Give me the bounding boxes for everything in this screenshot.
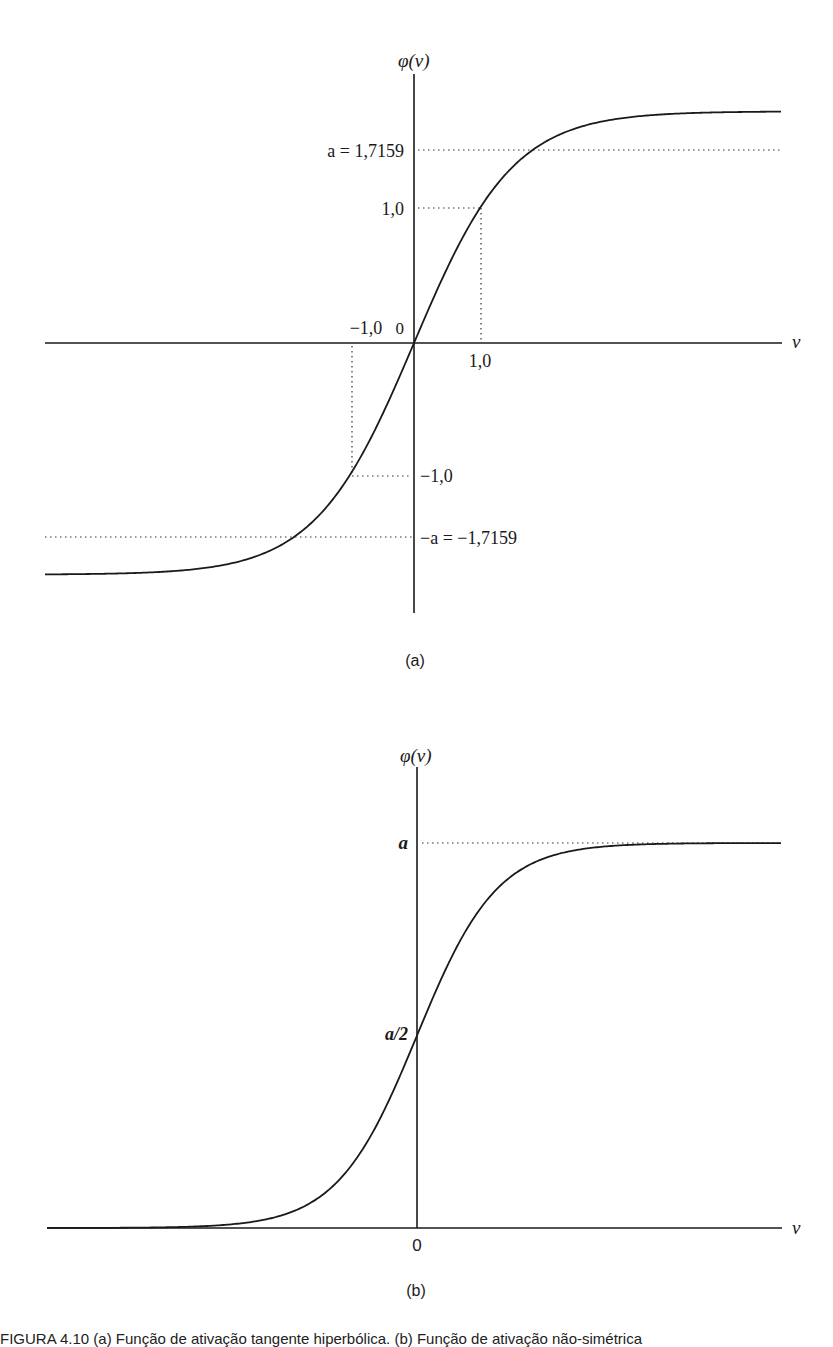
figure-caption: FIGURA 4.10 (a) Função de ativação tange… xyxy=(0,1330,833,1347)
ytick-neg1: −1,0 xyxy=(420,466,453,486)
xtick-neg1: −1,0 xyxy=(350,318,383,338)
ytick-a-value: a = 1,7159 xyxy=(327,141,404,161)
panel-label-b: (b) xyxy=(406,1282,426,1299)
origin-label-a: 0 xyxy=(396,319,405,338)
panel-a: φ(v) v 0 a = 1,7159 1,0 −1,0 −a = −1,715… xyxy=(45,50,801,669)
x-axis-label-b: v xyxy=(792,1217,801,1238)
ytick-a-b: a xyxy=(399,832,409,853)
y-axis-label-a: φ(v) xyxy=(398,50,430,72)
panel-label-a: (a) xyxy=(405,652,425,669)
xtick-1: 1,0 xyxy=(469,351,492,371)
ytick-neg-a: −a = −1,7159 xyxy=(420,528,517,548)
panel-b: φ(v) v a a/2 0 (b) xyxy=(47,745,801,1299)
x-axis-label-a: v xyxy=(792,331,801,352)
logistic-curve xyxy=(47,843,781,1228)
ytick-half-b: a/2 xyxy=(385,1024,408,1044)
y-axis-label-b: φ(v) xyxy=(400,745,432,767)
ytick-1: 1,0 xyxy=(382,199,405,219)
origin-label-b: 0 xyxy=(412,1236,421,1255)
